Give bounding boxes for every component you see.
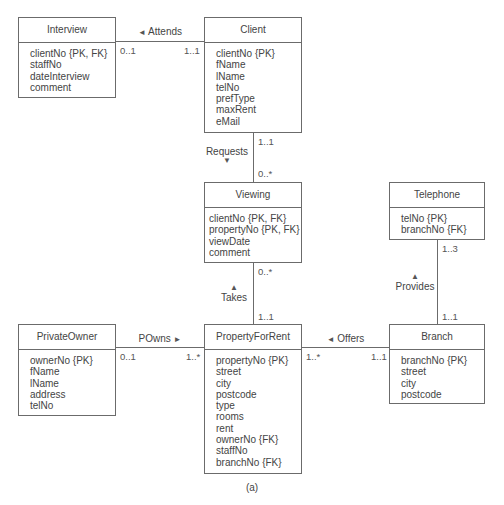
attribute: street	[216, 366, 301, 377]
multiplicity: 0..1	[120, 351, 136, 362]
multiplicity: 1..*	[306, 351, 320, 362]
attribute-list: clientNo {PK, FK} propertyNo {PK, FK} vi…	[205, 208, 301, 262]
attribute-list: ownerNo {PK} fName lName address telNo	[19, 350, 115, 415]
multiplicity: 0..1	[120, 45, 136, 56]
figure-caption: (a)	[0, 482, 504, 493]
attribute: prefType	[216, 93, 301, 104]
attribute: clientNo {PK, FK}	[30, 48, 115, 59]
attribute: telNo	[216, 82, 301, 93]
attribute: telNo {PK}	[401, 213, 484, 224]
attribute: branchNo {FK}	[216, 457, 301, 468]
attribute: postcode	[401, 389, 484, 400]
attribute: comment	[209, 247, 301, 258]
arrow-left-icon: ◄	[138, 28, 146, 37]
attribute: type	[216, 400, 301, 411]
connector-attends	[116, 41, 204, 42]
attribute: clientNo {PK}	[216, 48, 301, 59]
attribute: street	[401, 366, 484, 377]
connector-powns	[116, 347, 204, 348]
attribute: dateInterview	[30, 71, 115, 82]
relationship-label: Takes	[218, 292, 250, 303]
attribute: rooms	[216, 411, 301, 422]
multiplicity: 0..*	[258, 168, 272, 179]
attribute: comment	[30, 82, 115, 93]
arrow-right-icon: ►	[174, 335, 182, 344]
relationship-attends: ◄ Attends	[116, 26, 204, 37]
entity-privateowner: PrivateOwner ownerNo {PK} fName lName ad…	[18, 324, 116, 416]
relationship-offers: ◄ Offers	[302, 333, 389, 344]
relationship-label: Provides	[394, 281, 436, 292]
entity-title: Client	[205, 18, 301, 43]
multiplicity: 1..1	[371, 351, 387, 362]
relationship-takes: ▲ Takes	[218, 283, 250, 303]
entity-branch: Branch branchNo {PK} street city postcod…	[389, 324, 485, 404]
connector-requests	[253, 133, 254, 182]
attribute: ownerNo {PK}	[30, 355, 115, 366]
entity-client: Client clientNo {PK} fName lName telNo p…	[204, 17, 302, 133]
attribute: branchNo {FK}	[401, 224, 484, 235]
attribute: ownerNo {FK}	[216, 434, 301, 445]
attribute: fName	[30, 366, 115, 377]
attribute-list: clientNo {PK, FK} staffNo dateInterview …	[19, 43, 115, 97]
entity-interview: Interview clientNo {PK, FK} staffNo date…	[18, 17, 116, 98]
attribute: staffNo	[216, 445, 301, 456]
relationship-powns: POwns ►	[116, 333, 204, 344]
entity-title: Viewing	[205, 183, 301, 208]
relationship-label: Offers	[337, 333, 364, 344]
attribute: viewDate	[209, 236, 301, 247]
entity-title: Interview	[19, 18, 115, 43]
attribute: maxRent	[216, 104, 301, 115]
multiplicity: 0..*	[258, 266, 272, 277]
attribute-list: branchNo {PK} street city postcode	[390, 350, 484, 404]
multiplicity: 1..*	[186, 351, 200, 362]
multiplicity: 1..1	[442, 311, 458, 322]
entity-title: PrivateOwner	[19, 325, 115, 350]
attribute: city	[401, 378, 484, 389]
arrow-down-icon: ▼	[204, 156, 250, 165]
entity-telephone: Telephone telNo {PK} branchNo {FK}	[389, 182, 485, 240]
attribute: lName	[30, 378, 115, 389]
connector-provides	[437, 240, 438, 324]
attribute: rent	[216, 423, 301, 434]
entity-title: PropertyForRent	[205, 325, 301, 350]
relationship-label: Attends	[148, 26, 182, 37]
attribute: propertyNo {PK}	[216, 355, 301, 366]
entity-title: Branch	[390, 325, 484, 350]
entity-propertyforrent: PropertyForRent propertyNo {PK} street c…	[204, 324, 302, 474]
attribute: clientNo {PK, FK}	[209, 213, 301, 224]
arrow-up-icon: ▲	[394, 272, 436, 281]
attribute: propertyNo {PK, FK}	[209, 224, 301, 235]
multiplicity: 1..1	[258, 136, 274, 147]
attribute: branchNo {PK}	[401, 355, 484, 366]
connector-takes	[253, 263, 254, 324]
attribute-list: telNo {PK} branchNo {FK}	[390, 208, 484, 240]
entity-title: Telephone	[390, 183, 484, 208]
arrow-left-icon: ◄	[327, 335, 335, 344]
attribute-list: propertyNo {PK} street city postcode typ…	[205, 350, 301, 472]
attribute: fName	[216, 59, 301, 70]
relationship-label: POwns	[139, 333, 171, 344]
multiplicity: 1..3	[442, 243, 458, 254]
connector-offers	[302, 347, 389, 348]
relationship-provides: ▲ Provides	[394, 272, 436, 292]
entity-viewing: Viewing clientNo {PK, FK} propertyNo {PK…	[204, 182, 302, 263]
relationship-requests: Requests ▼	[204, 146, 250, 165]
attribute: address	[30, 389, 115, 400]
attribute-list: clientNo {PK} fName lName telNo prefType…	[205, 43, 301, 131]
multiplicity: 1..1	[258, 311, 274, 322]
arrow-up-icon: ▲	[218, 283, 250, 292]
attribute: staffNo	[30, 59, 115, 70]
multiplicity: 1..1	[184, 45, 200, 56]
attribute: eMail	[216, 116, 301, 127]
attribute: postcode	[216, 389, 301, 400]
attribute: telNo	[30, 400, 115, 411]
attribute: lName	[216, 71, 301, 82]
attribute: city	[216, 378, 301, 389]
